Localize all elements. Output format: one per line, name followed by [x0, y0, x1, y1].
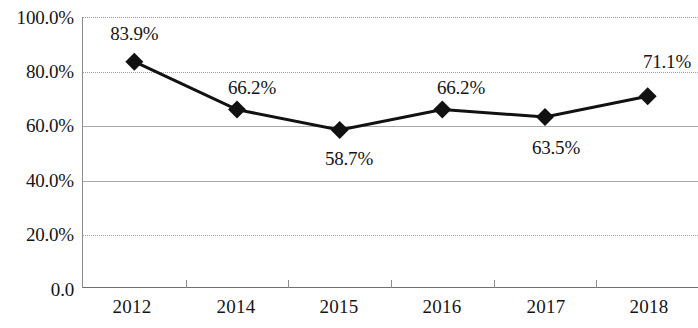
y-tick-label-80: 80.0%: [26, 62, 74, 81]
data-point-marker: [433, 101, 451, 119]
x-tick-label-1: 2014: [217, 296, 256, 318]
y-axis: 100.0% 80.0% 60.0% 40.0% 20.0% 0.0: [0, 0, 78, 328]
y-tick-label-20: 20.0%: [26, 225, 74, 244]
data-series: [83, 18, 698, 289]
series-line: [134, 62, 647, 130]
line-chart: 100.0% 80.0% 60.0% 40.0% 20.0% 0.0 83.9%…: [0, 0, 698, 328]
x-tick-label-2: 2015: [320, 296, 359, 318]
data-label-2015: 58.7%: [325, 149, 373, 168]
data-point-marker: [228, 101, 246, 119]
data-label-2017: 63.5%: [532, 138, 580, 157]
x-tick-label-0: 2012: [113, 296, 152, 318]
data-label-2012: 83.9%: [110, 24, 158, 43]
x-tick-label-5: 2018: [630, 296, 669, 318]
data-label-2018: 71.1%: [643, 52, 691, 71]
x-tick-label-4: 2017: [527, 296, 566, 318]
y-tick-label-0: 0.0: [51, 280, 74, 299]
data-point-marker: [639, 87, 657, 105]
x-axis: 2012 2014 2015 2016 2017 2018: [82, 296, 698, 326]
x-tick-label-3: 2016: [423, 296, 462, 318]
y-tick-label-100: 100.0%: [17, 8, 74, 27]
plot-area: 83.9% 66.2% 58.7% 66.2% 63.5% 71.1%: [82, 17, 698, 288]
data-label-2016: 66.2%: [437, 78, 485, 97]
data-label-2014: 66.2%: [228, 78, 276, 97]
data-point-marker: [536, 108, 554, 126]
y-tick-label-40: 40.0%: [26, 171, 74, 190]
data-point-marker: [331, 121, 349, 139]
y-tick-label-60: 60.0%: [26, 116, 74, 135]
data-point-marker: [125, 53, 143, 71]
